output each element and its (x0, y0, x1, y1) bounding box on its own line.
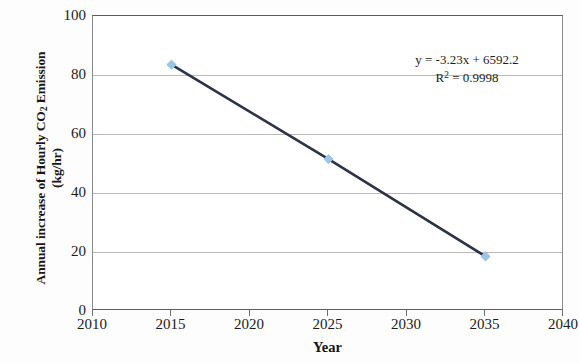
trendline-r2-text: R2 = 0.9998 (372, 69, 562, 87)
x-axis-tick-labels: 2010 2015 2020 2025 2030 2035 2040 (92, 316, 563, 338)
trendline-equation-text: y = -3.23x + 6592.2 (372, 51, 562, 69)
r2-label: R (436, 70, 445, 85)
chart-figure: Annual increase of Hourly CO2 Emission (… (0, 0, 580, 363)
x-tick-label-2025: 2025 (293, 316, 363, 333)
x-tick-label-2015: 2015 (136, 316, 206, 333)
y-tick-label-80: 80 (42, 66, 86, 83)
y-tick-label-100: 100 (42, 7, 86, 24)
r2-value: = 0.9998 (449, 70, 499, 85)
x-tick-label-2040: 2040 (528, 316, 580, 333)
x-tick-label-2020: 2020 (214, 316, 284, 333)
trendline-equation-annotation: y = -3.23x + 6592.2 R2 = 0.9998 (372, 51, 562, 88)
y-tick-label-20: 20 (42, 243, 86, 260)
y-tick-label-60: 60 (42, 125, 86, 142)
x-tick-label-2010: 2010 (57, 316, 127, 333)
x-tick-label-2030: 2030 (371, 316, 441, 333)
y-axis-tick-labels: 100 80 60 40 20 0 (36, 15, 86, 310)
x-axis-title: Year (92, 339, 563, 356)
y-tick-label-40: 40 (42, 184, 86, 201)
x-tick-label-2035: 2035 (450, 316, 520, 333)
